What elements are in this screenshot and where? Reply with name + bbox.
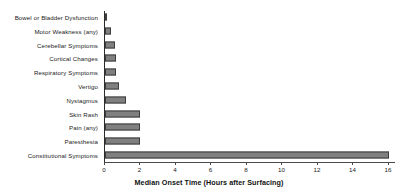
x-tick-label: 12 [313,166,320,173]
x-tick [317,162,318,165]
bar [105,13,107,20]
category-label: Paresthesia [64,138,98,145]
category-label: Constitutional Symptoms [28,152,98,159]
x-tick [175,162,176,165]
bar [105,69,116,76]
category-label: Pain (any) [69,124,98,131]
bar-row: Cortical Changes [0,51,418,65]
bar-row: Constitutional Symptoms [0,148,418,162]
bar [105,110,140,117]
x-tick [388,162,389,165]
x-tick-label: 14 [349,166,356,173]
x-tick-label: 6 [209,166,212,173]
bar-row: Cerebellar Symptoms [0,38,418,52]
category-label: Vertigo [78,82,98,89]
bar-row: Pain (any) [0,121,418,135]
category-label: Nystagmus [66,96,98,103]
x-tick-label: 16 [384,166,391,173]
bar [105,152,389,159]
x-axis-title: Median Onset Time (Hours after Surfacing… [0,178,418,187]
bar [105,55,116,62]
x-tick [281,162,282,165]
bar-row: Paresthesia [0,134,418,148]
x-tick [352,162,353,165]
category-label: Motor Weakness (any) [34,27,98,34]
bar-row: Vertigo [0,79,418,93]
bar-row: Bowel or Bladder Dysfunction [0,10,418,24]
category-label: Skin Rash [69,110,98,117]
bar [105,96,126,103]
bar-row: Motor Weakness (any) [0,24,418,38]
x-tick-label: 2 [138,166,141,173]
bar [105,124,140,131]
x-tick [104,162,105,165]
x-tick [246,162,247,165]
x-tick-label: 4 [173,166,176,173]
bar [105,138,140,145]
x-tick-label: 10 [278,166,285,173]
bar [105,41,115,48]
category-label: Respiratory Symptoms [34,69,98,76]
x-tick [139,162,140,165]
bar [105,82,119,89]
category-label: Bowel or Bladder Dysfunction [15,13,98,20]
category-label: Cerebellar Symptoms [37,41,98,48]
x-tick-label: 8 [244,166,247,173]
bar-chart: Bowel or Bladder DysfunctionMotor Weakne… [0,0,418,195]
bar-row: Skin Rash [0,107,418,121]
bar-row: Respiratory Symptoms [0,65,418,79]
bar [105,27,111,34]
bar-rows: Bowel or Bladder DysfunctionMotor Weakne… [0,10,418,162]
bar-row: Nystagmus [0,93,418,107]
category-label: Cortical Changes [49,55,98,62]
x-tick-label: 0 [102,166,105,173]
x-tick [210,162,211,165]
